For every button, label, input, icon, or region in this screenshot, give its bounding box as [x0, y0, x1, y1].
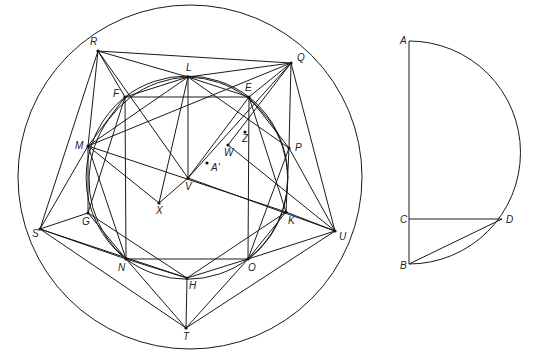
line-UO — [248, 231, 335, 259]
label-O: O — [248, 262, 256, 273]
label-L: L — [186, 62, 192, 73]
line-GH — [88, 213, 187, 278]
point-T — [184, 326, 187, 329]
label-V: V — [185, 181, 193, 192]
label-T: T — [183, 331, 190, 342]
label-M: M — [75, 140, 84, 151]
point-G — [86, 211, 89, 214]
label-W: W — [224, 147, 235, 158]
label-E: E — [245, 82, 252, 93]
semicircle-arc — [409, 41, 520, 264]
point-R — [96, 49, 99, 52]
line-VX — [159, 178, 188, 203]
label-A': A' — [210, 162, 221, 173]
label-Z: Z — [241, 133, 249, 144]
label-D: D — [506, 214, 513, 225]
label-N: N — [118, 262, 126, 273]
left-figure: RQLFEMPZWA'VXGKSUNOHT — [18, 5, 362, 349]
point-K — [284, 210, 287, 213]
right-labels: ACDB — [399, 35, 513, 271]
label-H: H — [189, 280, 197, 291]
point-P — [287, 146, 290, 149]
line-UT — [186, 231, 335, 328]
label-A: A — [399, 35, 407, 46]
point-E — [247, 95, 250, 98]
point-F — [123, 95, 126, 98]
label-S: S — [32, 228, 39, 239]
point-U — [333, 229, 336, 232]
point-A' — [205, 161, 208, 164]
point-S — [38, 227, 41, 230]
line-EK — [249, 97, 286, 212]
line-QP — [289, 63, 291, 148]
line-EO — [248, 97, 249, 259]
point-V — [186, 176, 189, 179]
line-LE — [188, 77, 249, 97]
point-Q — [289, 61, 292, 64]
label-B: B — [400, 260, 407, 271]
line-PU — [289, 148, 335, 231]
line-LX — [159, 77, 188, 203]
line-QV — [188, 63, 291, 178]
geometry-diagram: RQLFEMPZWA'VXGKSUNOHT ACDB — [0, 0, 552, 354]
line-BD — [409, 219, 502, 264]
right-figure: ACDB — [399, 35, 520, 271]
point-L — [186, 75, 189, 78]
label-P: P — [295, 142, 302, 153]
label-F: F — [113, 88, 120, 99]
line-KO — [248, 212, 286, 259]
label-C: C — [400, 214, 408, 225]
label-R: R — [90, 36, 97, 47]
label-Q: Q — [297, 52, 305, 63]
point-M — [86, 144, 89, 147]
line-KH — [187, 212, 286, 278]
label-X: X — [155, 205, 163, 216]
line-RQ — [98, 51, 291, 63]
label-G: G — [82, 216, 90, 227]
point-O — [246, 257, 249, 260]
line-FG — [88, 97, 125, 213]
line-MN — [88, 146, 126, 259]
line-QW — [228, 63, 291, 145]
line-GS — [40, 213, 88, 229]
line-HT — [186, 278, 187, 328]
line-MX — [88, 146, 159, 203]
line-FN — [125, 97, 126, 259]
inner-arc-bottom — [126, 259, 248, 279]
point-labels: RQLFEMPZWA'VXGKSUNOHT — [32, 36, 347, 342]
line-LP — [188, 77, 289, 148]
line-EP — [249, 97, 289, 148]
point-N — [124, 257, 127, 260]
line-MS — [40, 146, 88, 229]
label-U: U — [339, 231, 347, 242]
